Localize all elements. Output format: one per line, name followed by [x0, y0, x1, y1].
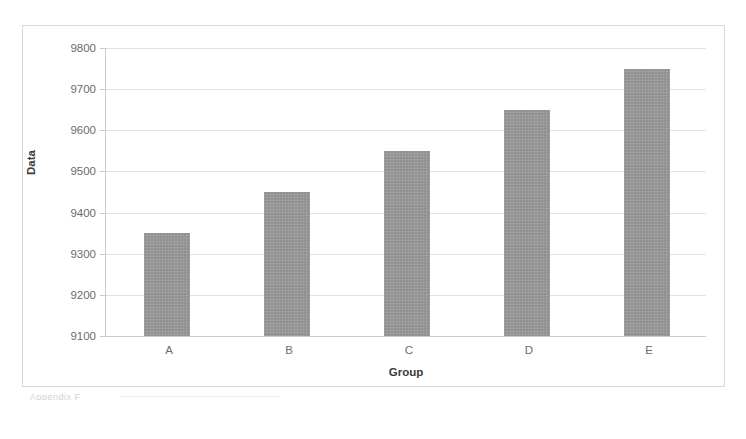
- ytick-mark-9300: [100, 254, 105, 255]
- y-tick-labels: 9800 9700 9600 9500 9400 9300 9200 9100: [44, 0, 96, 439]
- ytick-mark-9200: [100, 295, 105, 296]
- ytick-label-9100: 9100: [50, 330, 96, 342]
- ytick-mark-9100: [100, 336, 105, 337]
- ytick-label-9400: 9400: [50, 207, 96, 219]
- chart-figure: 9800 9700 9600 9500 9400 9300 9200 9100 …: [0, 0, 746, 439]
- gridline-9700: [106, 89, 706, 90]
- bar-E[interactable]: [624, 69, 670, 336]
- ytick-label-9600: 9600: [50, 124, 96, 136]
- ytick-mark-9600: [100, 130, 105, 131]
- ytick-mark-9400: [100, 213, 105, 214]
- ytick-label-9700: 9700: [50, 83, 96, 95]
- ytick-label-9300: 9300: [50, 248, 96, 260]
- ytick-label-9200: 9200: [50, 289, 96, 301]
- xtick-label-E: E: [589, 344, 709, 356]
- plot-area: [106, 48, 706, 336]
- ytick-mark-9500: [100, 171, 105, 172]
- bar-D[interactable]: [504, 110, 550, 336]
- xtick-label-C: C: [349, 344, 469, 356]
- bar-A[interactable]: [144, 233, 190, 336]
- y-axis-title: Data: [25, 150, 37, 175]
- y-axis-line: [105, 48, 106, 337]
- xtick-label-A: A: [109, 344, 229, 356]
- xtick-label-D: D: [469, 344, 589, 356]
- footer-note: Appendix F: [30, 392, 81, 400]
- ytick-mark-9700: [100, 89, 105, 90]
- ytick-mark-9800: [100, 48, 105, 49]
- footer-rule: [120, 396, 280, 397]
- x-axis-title: Group: [106, 366, 706, 378]
- gridline-9800: [106, 48, 706, 49]
- x-axis-line: [105, 336, 706, 337]
- ytick-label-9500: 9500: [50, 165, 96, 177]
- bar-C[interactable]: [384, 151, 430, 336]
- xtick-label-B: B: [229, 344, 349, 356]
- ytick-label-9800: 9800: [50, 42, 96, 54]
- gridline-9600: [106, 130, 706, 131]
- bar-B[interactable]: [264, 192, 310, 336]
